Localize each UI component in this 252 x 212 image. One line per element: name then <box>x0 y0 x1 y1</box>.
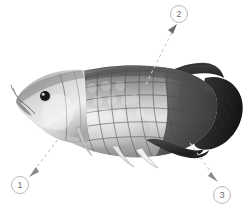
arrowhead-3 <box>208 172 218 182</box>
callout-label-1: 1 <box>17 180 22 190</box>
callout-marker-3[interactable]: 3 <box>213 186 231 204</box>
annotation-overlay <box>0 0 252 212</box>
arrowhead-1 <box>29 167 39 177</box>
leader-line-2 <box>146 28 174 84</box>
arrowhead-2 <box>168 24 177 34</box>
callout-marker-1[interactable]: 1 <box>11 176 29 194</box>
figure-container: 1 2 3 <box>0 0 252 212</box>
callout-label-2: 2 <box>176 9 181 19</box>
callout-marker-2[interactable]: 2 <box>170 5 188 23</box>
leader-line-1 <box>33 121 72 172</box>
callout-label-3: 3 <box>219 190 224 200</box>
